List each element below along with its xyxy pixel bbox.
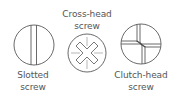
clutch-head-label: Clutch-head screw: [114, 69, 167, 93]
cross-head-label-line1: Cross-head: [62, 8, 111, 20]
slotted-label-line2: screw: [17, 81, 48, 93]
cross-head-label: Cross-head screw: [62, 8, 111, 32]
clutch-head-label-line1: Clutch-head: [114, 69, 167, 81]
slotted-screw-head-icon: [14, 25, 54, 65]
cross-head-screw-icon: [68, 34, 106, 72]
slotted-label-line1: Slotted: [17, 69, 48, 81]
clutch-head-screw-icon: [121, 24, 161, 64]
slotted-label: Slotted screw: [17, 69, 48, 93]
cross-head-label-line2: screw: [62, 20, 111, 32]
clutch-head-label-line2: screw: [114, 81, 167, 93]
